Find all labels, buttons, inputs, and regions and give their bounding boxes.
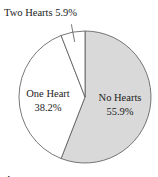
two-hearts-label: Two Hearts 5.9%: [4, 7, 77, 18]
figure-caption: Figure 1.1: [2, 175, 45, 177]
no-hearts-label: No Hearts: [99, 92, 142, 103]
no-hearts-percent: 55.9%: [106, 106, 133, 117]
one-heart-label: One Heart: [26, 88, 70, 99]
pie-chart: Two Hearts 5.9% One Heart 38.2% No Heart…: [0, 0, 158, 177]
one-heart-percent: 38.2%: [34, 102, 61, 113]
